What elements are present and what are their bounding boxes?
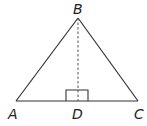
triangle-diagram: B A D C xyxy=(0,0,147,126)
label-c: C xyxy=(134,106,144,122)
label-b: B xyxy=(73,1,83,17)
label-a: A xyxy=(7,106,18,122)
right-angle-marker xyxy=(66,90,88,101)
label-d: D xyxy=(72,106,83,122)
side-ab xyxy=(16,18,78,101)
side-bc xyxy=(78,18,138,101)
